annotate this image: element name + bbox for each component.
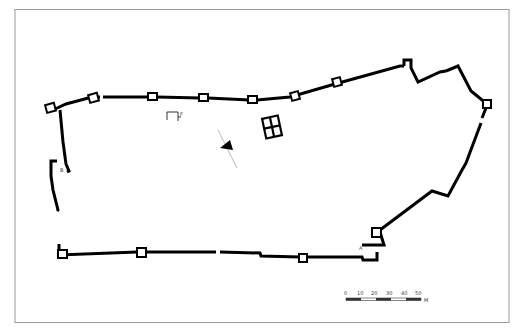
tower [148, 93, 157, 100]
north-arrow-icon [218, 130, 237, 168]
svg-text:M: M [424, 297, 428, 303]
tower [137, 248, 146, 257]
building-f [167, 112, 181, 121]
svg-text:40: 40 [401, 290, 407, 296]
tower [483, 100, 491, 108]
interior-building [262, 116, 282, 139]
svg-text:0: 0 [344, 290, 347, 296]
tower [372, 228, 381, 237]
site-plan: F B A 0 10 20 30 40 50 M [0, 0, 521, 334]
svg-text:10: 10 [357, 290, 363, 296]
tower [58, 250, 67, 258]
svg-text:30: 30 [386, 290, 392, 296]
label-f: F [180, 111, 183, 117]
svg-text:20: 20 [371, 290, 377, 296]
tower [45, 103, 56, 113]
label-a: A [359, 245, 363, 251]
scale-bar: 0 10 20 30 40 50 M [344, 290, 428, 303]
svg-text:50: 50 [415, 290, 421, 296]
tower [199, 94, 208, 101]
tower [248, 96, 257, 103]
tower [332, 77, 342, 87]
wall-outline [51, 60, 487, 260]
tower [88, 93, 99, 103]
tower [290, 91, 300, 101]
tower [299, 254, 307, 262]
label-b: B [60, 167, 64, 173]
drawing-frame [15, 10, 509, 323]
towers [45, 77, 491, 262]
